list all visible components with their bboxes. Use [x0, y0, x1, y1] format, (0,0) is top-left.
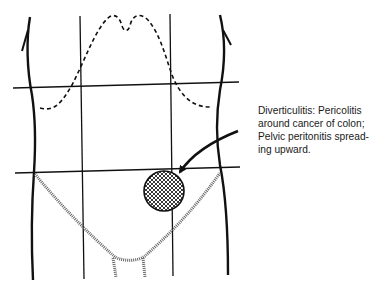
pelvic-region-hatched — [35, 173, 220, 260]
caption-line: around cancer of colon; — [258, 117, 386, 130]
caption: Diverticulitis: Pericolitis around cance… — [258, 104, 386, 156]
pelvic-leg-left — [113, 258, 116, 277]
grid-vertical-left — [80, 16, 84, 279]
lesion-circle — [144, 171, 184, 211]
caption-line: Pelvic peritonitis spread- — [258, 130, 386, 143]
grid-horizontal-lower — [15, 167, 240, 173]
body-outline-right — [217, 15, 228, 275]
body-outline-left — [28, 17, 36, 280]
caption-line: ing upward. — [258, 143, 386, 156]
grid-horizontal-upper — [13, 82, 239, 88]
pelvic-leg-right — [143, 258, 145, 277]
caption-line: Diverticulitis: Pericolitis — [258, 104, 386, 117]
grid-vertical-right — [170, 14, 173, 276]
dashed-costal-outline — [40, 15, 212, 108]
pointer-arrow — [180, 131, 238, 172]
